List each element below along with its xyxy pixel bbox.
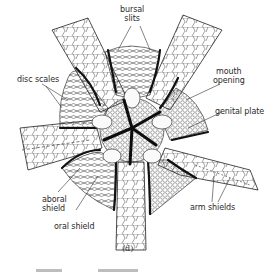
label-mouth-line1: mouth [213, 67, 245, 76]
label-mouth-opening: mouth opening [213, 67, 245, 85]
label-disc-scales: disc scales [17, 75, 59, 84]
label-aboral-shield: aboral shield [42, 195, 67, 213]
label-arm-shields: arm shields [190, 203, 235, 212]
label-bursal-slits: bursal slits [120, 5, 144, 23]
label-mouth-line2: opening [213, 76, 245, 85]
label-oral-shield: oral shield [54, 222, 94, 231]
label-bursal-line1: bursal [120, 5, 144, 14]
arm-bottom [116, 162, 146, 250]
label-aboral-line1: aboral [42, 195, 67, 204]
label-genital-plate: genital plate [215, 107, 264, 116]
panel-label: (d) [122, 244, 133, 253]
label-bursal-line2: slits [120, 14, 144, 23]
diagram-canvas: bursal slits disc scales mouth opening g… [0, 0, 271, 272]
brittle-star-illustration [0, 0, 271, 272]
label-aboral-line2: shield [42, 204, 67, 213]
